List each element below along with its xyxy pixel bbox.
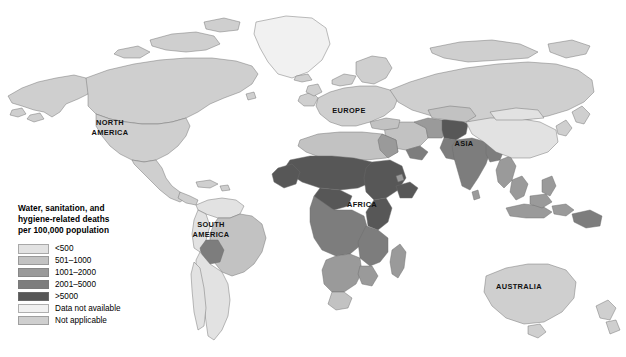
- legend-row: 501–1000: [18, 256, 188, 267]
- legend-swatch: [18, 256, 49, 265]
- region-south-america: [191, 198, 266, 340]
- legend-label: <500: [55, 244, 73, 254]
- legend-row: >5000: [18, 292, 188, 303]
- legend-title-line-2: hygiene-related deaths: [18, 214, 188, 225]
- legend-label: 1001–2000: [55, 268, 96, 278]
- legend-swatch: [18, 316, 49, 325]
- legend-title-line-3: per 100,000 population: [18, 225, 188, 236]
- legend-row: 1001–2000: [18, 268, 188, 279]
- region-australia: [484, 264, 620, 338]
- legend-row: Data not available: [18, 304, 188, 315]
- map-legend: Water, sanitation, and hygiene-related d…: [18, 203, 188, 328]
- map-figure: NORTH AMERICA SOUTH AMERICA EUROPE AFRIC…: [0, 0, 626, 357]
- legend-title-line-1: Water, sanitation, and: [18, 203, 188, 214]
- legend-label: Not applicable: [55, 316, 107, 326]
- legend-swatch: [18, 268, 49, 277]
- legend-label: 501–1000: [55, 256, 91, 266]
- legend-label: 2001–5000: [55, 280, 96, 290]
- region-africa: [272, 132, 418, 310]
- legend-entries: <500501–10001001–20002001–5000>5000Data …: [18, 244, 188, 327]
- legend-swatch: [18, 304, 49, 313]
- region-asia: [452, 106, 602, 228]
- legend-row: Not applicable: [18, 316, 188, 327]
- legend-swatch: [18, 280, 49, 289]
- legend-label: Data not available: [55, 304, 121, 314]
- legend-swatch: [18, 244, 49, 253]
- legend-swatch: [18, 292, 49, 301]
- legend-row: <500: [18, 244, 188, 255]
- legend-title: Water, sanitation, and hygiene-related d…: [18, 203, 188, 237]
- legend-label: >5000: [55, 292, 78, 302]
- legend-row: 2001–5000: [18, 280, 188, 291]
